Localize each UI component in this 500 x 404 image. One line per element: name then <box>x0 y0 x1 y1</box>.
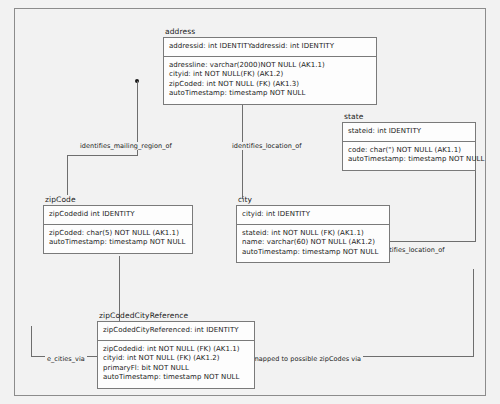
entity-field-attr: primaryFl: bit NOT NULL <box>103 364 249 374</box>
entity-field-pk: cityid: int IDENTITY <box>242 210 384 220</box>
entity-box-address: addressid: int IDENTITYaddressid: int ID… <box>163 37 377 105</box>
entity-pk-section-zipcode: zipCodedid int IDENTITY <box>44 206 192 225</box>
entity-city[interactable]: city cityid: int IDENTITY stateid: int N… <box>236 195 390 263</box>
entity-field-attr: autoTimestamp: timestamp NOT NULL <box>103 373 249 383</box>
entity-field-attr: zipCoded: char(5) NOT NULL (AK1.1) <box>49 229 187 239</box>
entity-pk-section-zipcoded-city-reference: zipCodedCityReferenced: int IDENTITY <box>98 322 254 341</box>
entity-title-address: address <box>163 27 377 37</box>
entity-attr-section-zipcoded-city-reference: zipCodedid: int NOT NULL (FK) (AK1.1) ci… <box>98 341 254 388</box>
entity-field-attr: name: varchar(60) NOT NULL (AK1.2) <box>242 238 384 248</box>
entity-field-attr: cityid: int NOT NULL (FK) (AK1.2) <box>103 354 249 364</box>
entity-zipcoded-city-reference[interactable]: zipCodedCityReference zipCodedCityRefere… <box>97 311 255 389</box>
entity-title-zipcoded-city-reference: zipCodedCityReference <box>97 311 255 321</box>
relationship-label-identifies-mailing-region-of: identifies_mailing_region_of <box>78 142 174 150</box>
entity-field-attr: zipCoded: int NOT NULL (FK) (AK1.3) <box>169 80 371 90</box>
entity-pk-section-state: stateid: int IDENTITY <box>343 123 475 142</box>
diagram-canvas: identifies_mailing_region_of identifies_… <box>0 0 500 404</box>
entity-box-zipcoded-city-reference: zipCodedCityReferenced: int IDENTITY zip… <box>97 321 255 389</box>
connector-address-to-zipcode-vertical-bottom <box>67 155 68 195</box>
entity-field-pk: addressid: int IDENTITYaddressid: int ID… <box>169 42 371 52</box>
entity-attr-section-city: stateid: int NOT NULL (FK) (AK1.1) name:… <box>237 225 389 263</box>
entity-field-pk: zipCodedid int IDENTITY <box>49 210 187 220</box>
entity-field-attr: stateid: int NOT NULL (FK) (AK1.1) <box>242 229 384 239</box>
diagram-frame: identifies_mailing_region_of identifies_… <box>14 8 486 396</box>
connector-address-to-zipcode-horizontal <box>67 155 138 156</box>
entity-field-attr: code: char(") NOT NULL (AK1.1) <box>348 146 470 156</box>
connector-zccr-left-vertical <box>31 326 32 357</box>
entity-state[interactable]: state stateid: int IDENTITY code: char("… <box>342 112 476 171</box>
entity-field-attr: autoTimestamp: timestamp NOT NULL <box>169 89 371 99</box>
entity-box-zipcode: zipCodedid int IDENTITY zipCoded: char(5… <box>43 205 193 254</box>
entity-field-pk: stateid: int IDENTITY <box>348 127 470 137</box>
entity-field-attr: zipCodedid: int NOT NULL (FK) (AK1.1) <box>103 345 249 355</box>
entity-field-attr: autoTimestamp: timestamp NOT NULL <box>49 238 187 248</box>
entity-title-city: city <box>236 195 390 205</box>
connector-city-to-zccr-vertical <box>473 269 474 357</box>
entity-box-state: stateid: int IDENTITY code: char(") NOT … <box>342 122 476 171</box>
entity-attr-section-zipcode: zipCoded: char(5) NOT NULL (AK1.1) autoT… <box>44 225 192 253</box>
entity-title-state: state <box>342 112 476 122</box>
entity-field-attr: autoTimestamp: timestamp NOT NULL <box>242 248 384 258</box>
relationship-label-e-cities-via: e_cities_via <box>45 355 87 363</box>
entity-field-pk: zipCodedCityReferenced: int IDENTITY <box>103 326 249 336</box>
relationship-label-identifies-location-of-city: identifies_location_of <box>230 142 304 150</box>
entity-attr-section-address: adressline: varchar(2000)NOT NULL (AK1.1… <box>164 57 376 104</box>
entity-field-attr: adressline: varchar(2000)NOT NULL (AK1.1… <box>169 61 371 71</box>
entity-address[interactable]: address addressid: int IDENTITYaddressid… <box>163 27 377 105</box>
entity-field-attr: autoTimestamp: timestamp NOT NULL <box>348 155 470 165</box>
entity-field-attr: cityid: int NOT NULL(FK) (AK1.2) <box>169 70 371 80</box>
connector-state-to-city-horizontal <box>376 241 475 242</box>
entity-title-zipcode: zipCode <box>43 195 193 205</box>
entity-pk-section-address: addressid: int IDENTITYaddressid: int ID… <box>164 38 376 57</box>
entity-box-city: cityid: int IDENTITY stateid: int NOT NU… <box>236 205 390 263</box>
relationship-label-is-mapped-to-possible-zipcodes-via: is mapped to possible zipCodes via <box>243 355 363 363</box>
entity-zipcode[interactable]: zipCode zipCodedid int IDENTITY zipCoded… <box>43 195 193 254</box>
entity-attr-section-state: code: char(") NOT NULL (AK1.1) autoTimes… <box>343 142 475 170</box>
connector-state-to-city-vertical <box>475 161 476 242</box>
entity-pk-section-city: cityid: int IDENTITY <box>237 206 389 225</box>
